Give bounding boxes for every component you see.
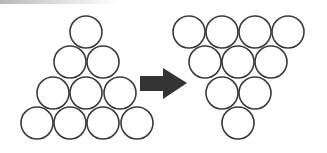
right-coin-2 bbox=[206, 16, 238, 48]
right-coin-3 bbox=[239, 16, 271, 48]
left-coin-5 bbox=[70, 77, 102, 109]
right-coin-7 bbox=[255, 46, 287, 78]
left-triangle-point-up bbox=[21, 16, 153, 139]
left-coin-8 bbox=[54, 107, 86, 139]
right-coin-1 bbox=[173, 16, 205, 48]
left-coin-6 bbox=[104, 77, 136, 109]
left-coin-4 bbox=[37, 77, 69, 109]
left-coin-7 bbox=[21, 107, 53, 139]
right-coin-5 bbox=[189, 46, 221, 78]
right-coin-9 bbox=[239, 77, 271, 109]
left-coin-1 bbox=[70, 16, 102, 48]
right-coin-4 bbox=[272, 16, 304, 48]
left-coin-9 bbox=[87, 107, 119, 139]
right-coin-6 bbox=[222, 46, 254, 78]
right-arrow-icon bbox=[140, 68, 187, 99]
left-coin-10 bbox=[121, 107, 153, 139]
right-coin-8 bbox=[206, 77, 238, 109]
left-coin-2 bbox=[54, 46, 86, 78]
right-coin-10 bbox=[222, 107, 254, 139]
left-coin-3 bbox=[87, 46, 119, 78]
right-triangle-point-down bbox=[173, 16, 304, 139]
puzzle-diagram bbox=[0, 0, 327, 153]
